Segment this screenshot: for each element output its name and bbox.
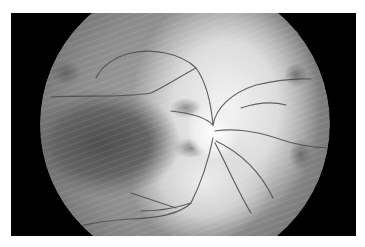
photo-frame (11, 13, 356, 236)
fundus-image (11, 13, 356, 236)
